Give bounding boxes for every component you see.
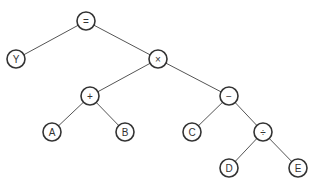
node-label: ×: [155, 54, 161, 65]
edge-eq-Y: [16, 21, 86, 59]
edge-eq-mul: [86, 21, 158, 59]
node-div: ÷: [254, 123, 272, 141]
node-minus: −: [220, 87, 238, 105]
node-mul: ×: [149, 50, 167, 68]
node-label: −: [226, 91, 232, 102]
node-label: =: [83, 16, 89, 27]
node-E: E: [289, 159, 307, 177]
node-D: D: [220, 159, 238, 177]
node-label: D: [225, 163, 232, 174]
edge-mul-plus: [90, 59, 158, 96]
node-label: B: [122, 127, 129, 138]
node-eq: =: [77, 12, 95, 30]
tree-edges: [16, 21, 298, 168]
node-A: A: [43, 123, 61, 141]
node-label: ÷: [260, 127, 266, 138]
tree-nodes: =Y×+AB−C÷DE: [7, 12, 307, 177]
node-B: B: [116, 123, 134, 141]
node-label: E: [295, 163, 302, 174]
node-plus: +: [81, 87, 99, 105]
node-label: C: [188, 127, 195, 138]
node-Y: Y: [7, 50, 25, 68]
node-label: Y: [13, 54, 20, 65]
node-label: +: [87, 91, 93, 102]
edge-mul-minus: [158, 59, 229, 96]
node-label: A: [49, 127, 56, 138]
node-C: C: [183, 123, 201, 141]
expression-tree: =Y×+AB−C÷DE: [0, 0, 316, 184]
